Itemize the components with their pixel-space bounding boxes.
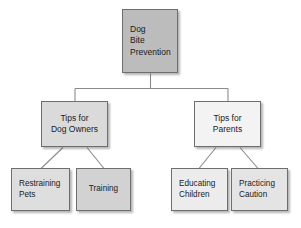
node-restraining-pets[interactable]: Restraining Pets xyxy=(11,168,70,211)
node-tips-for-dog-owners[interactable]: Tips for Dog Owners xyxy=(41,101,108,147)
tree-diagram: Dog Bite Prevention Tips for Dog Owners … xyxy=(0,0,301,228)
edge-dog-owners-to-training xyxy=(87,148,104,169)
node-label-line: Caution xyxy=(239,190,267,201)
edge-dog-owners-to-restraining-pets xyxy=(41,148,63,169)
node-label-line: Tips for xyxy=(60,113,88,124)
node-dog-bite-prevention[interactable]: Dog Bite Prevention xyxy=(122,9,178,73)
node-label-line: Practicing xyxy=(239,179,275,190)
node-label-line: Dog Owners xyxy=(51,124,98,135)
node-tips-for-parents[interactable]: Tips for Parents xyxy=(194,101,261,147)
node-label-line: Prevention xyxy=(130,47,171,58)
edge-parents-to-educating-children xyxy=(199,148,216,169)
node-label-line: Tips for xyxy=(213,113,241,124)
node-label-line: Training xyxy=(89,184,118,195)
node-practicing-caution[interactable]: Practicing Caution xyxy=(231,168,288,211)
edge-parents-to-practicing-caution xyxy=(240,148,258,169)
node-label-line: Dog xyxy=(130,24,146,35)
node-label-line: Children xyxy=(179,190,210,201)
node-training[interactable]: Training xyxy=(76,168,131,211)
node-label-line: Educating xyxy=(179,179,215,190)
node-label-line: Restraining xyxy=(19,179,60,190)
node-label-line: Bite xyxy=(130,35,145,46)
node-label-line: Pets xyxy=(19,190,35,201)
node-educating-children[interactable]: Educating Children xyxy=(171,168,228,211)
node-label-line: Parents xyxy=(213,124,242,135)
